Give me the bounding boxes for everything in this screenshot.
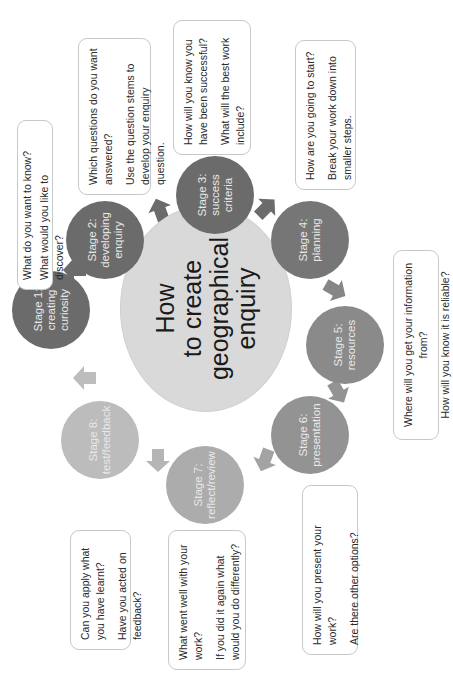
stage-label: reflect/review (205, 451, 218, 519)
question-text: Where will you get your information from… (401, 260, 431, 430)
arrow-stage4-to-stage5 (319, 274, 351, 306)
stage-4-circle: Stage 4: planning (271, 201, 349, 279)
stage-title: Stage 8: (87, 419, 100, 462)
question-text: How will you know you have been successf… (181, 30, 211, 145)
center-title-ellipse: How to create geographical enquiry (120, 205, 292, 412)
stage-label: enquiry (112, 221, 125, 259)
stage-label: creating (45, 290, 58, 331)
stage-8-questions-box: Can you apply what you have learnt? Have… (70, 530, 131, 650)
question-text: What would you like to discover? (37, 130, 67, 280)
center-title-line: enquiry (233, 237, 260, 380)
stage-4-questions-box: How are you going to start? Break your w… (295, 40, 356, 190)
stage-8-circle: Stage 8: test/feedback (61, 401, 139, 479)
stage-label: developing (99, 212, 112, 268)
stage-title: Stage 7: (192, 464, 205, 507)
stage-5-circle: Stage 5: resources (306, 306, 384, 384)
stage-7-circle: Stage 7: reflect/review (166, 446, 244, 524)
stage-title: Stage 3: (196, 174, 209, 217)
question-text: Use the question stems to develop your e… (123, 48, 168, 185)
stage-title: Stage 6: (297, 414, 310, 457)
stage-label: presentation (310, 403, 323, 466)
question-text: Which questions do you want answered? (86, 48, 116, 185)
question-text: Are there other options? (347, 495, 362, 645)
question-text: What will the best work include? (218, 30, 248, 145)
center-title-line: geographical (206, 237, 233, 380)
question-text: How are you going to start? (303, 50, 318, 180)
stage-title: Stage 5: (332, 324, 345, 367)
question-text: What do you want to know? (20, 130, 35, 280)
question-text: What went well with your work? (176, 540, 206, 660)
stage-label: planning (310, 218, 323, 261)
stage-title: Stage 2: (86, 219, 99, 262)
question-text: How will you present your work? (310, 495, 340, 645)
stage-7-questions-box: What went well with your work? If you di… (168, 530, 246, 670)
center-title-line: to create (179, 237, 206, 380)
stage-label: curiosity (58, 289, 71, 331)
stage-3-questions-box: How will you know you have been successf… (173, 20, 251, 155)
question-text: Have you acted on feedback? (115, 540, 145, 640)
stage-label: criteria (222, 178, 235, 213)
stage-6-questions-box: How will you present your work? Are ther… (302, 485, 358, 655)
stage-5-questions-box: Where will you get your information from… (393, 250, 439, 440)
center-title-line: How (152, 237, 179, 380)
stage-title: Stage 1: (32, 289, 45, 332)
stage-3-circle: Stage 3: success criteria (176, 156, 254, 234)
stage-6-circle: Stage 6: presentation (271, 396, 349, 474)
stage-label: test/feedback (100, 406, 113, 474)
stage-label: resources (345, 320, 358, 371)
question-text: Break your work down into smaller steps. (325, 50, 355, 180)
question-text: If you did it again what would you do di… (213, 540, 243, 660)
stage-label: success (209, 174, 222, 216)
stage-title: Stage 4: (297, 219, 310, 262)
question-text: How will you know it is reliable? (438, 260, 453, 430)
arrow-stage7-to-stage8 (146, 449, 170, 472)
arrow-stage8-to-stage1 (73, 366, 96, 390)
question-text: Can you apply what you have learnt? (78, 540, 108, 640)
stage-2-questions-box: Which questions do you want answered? Us… (78, 38, 151, 195)
stage-1-questions-box: What do you want to know? What would you… (17, 120, 53, 290)
stage-2-circle: Stage 2: developing enquiry (66, 201, 144, 279)
